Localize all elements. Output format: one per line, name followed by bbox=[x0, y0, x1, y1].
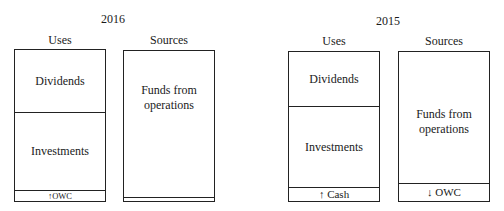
sources-box-2016: Funds from operations bbox=[123, 50, 215, 202]
uses-label-2015: Uses bbox=[288, 34, 380, 49]
owc-decrease-segment-2015: ↓ OWC bbox=[399, 183, 489, 201]
dividends-segment-2015: Dividends bbox=[289, 52, 379, 106]
owc-increase-segment-2016: ↑OWC bbox=[15, 190, 105, 201]
sources-label-2015: Sources bbox=[398, 34, 490, 49]
funds-from-operations-segment-2016: Funds from operations bbox=[124, 51, 214, 197]
sources-bottom-sliver-2016 bbox=[124, 197, 214, 201]
year-title-2016: 2016 bbox=[83, 12, 143, 27]
investments-segment-2015: Investments bbox=[289, 106, 379, 187]
cash-increase-segment-2015: ↑ Cash bbox=[289, 187, 379, 201]
sources-label-2016: Sources bbox=[123, 33, 215, 48]
dividends-segment-2016: Dividends bbox=[15, 50, 105, 112]
uses-box-2016: Dividends Investments ↑OWC bbox=[14, 49, 106, 202]
investments-segment-2016: Investments bbox=[15, 112, 105, 190]
sources-box-2015: Funds from operations ↓ OWC bbox=[398, 51, 490, 202]
funds-from-operations-segment-2015: Funds from operations bbox=[399, 52, 489, 183]
uses-label-2016: Uses bbox=[14, 33, 106, 48]
year-title-2015: 2015 bbox=[358, 14, 418, 29]
uses-box-2015: Dividends Investments ↑ Cash bbox=[288, 51, 380, 202]
